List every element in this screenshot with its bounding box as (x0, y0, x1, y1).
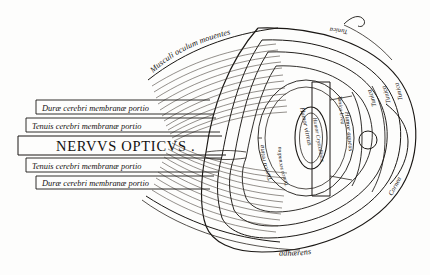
label-tunica-secundina: Tunica secundina (276, 146, 290, 187)
label-tunica-uvea: Tunica Uvea (337, 95, 346, 124)
leader-hook (344, 17, 392, 60)
label-musculi: Musculi oculum mouentes (148, 27, 232, 75)
eye-diagram-svg: Duræ cerebri membranæ portio Tenuis cere… (0, 0, 430, 275)
label-tunica-top: Tunica (328, 26, 348, 36)
svg-text:Tunica: Tunica (328, 26, 348, 36)
band-label-4: Tenuis cerebri membranæ portio (32, 162, 141, 171)
label-adhaerens: adhærens (279, 247, 312, 258)
svg-text:Cornea: Cornea (387, 175, 403, 197)
label-tunica-middle: Tunica (380, 84, 392, 104)
cornea-contour (386, 104, 408, 184)
engraving-plate: Duræ cerebri membranæ portio Tenuis cere… (0, 0, 430, 275)
band-label-5: Duræ cerebri membranæ portio (41, 179, 149, 188)
svg-text:Humor Crystallinus: Humor Crystallinus (312, 116, 326, 162)
band-label-1: Duræ cerebri membranæ portio (41, 104, 149, 113)
label-cornea: Cornea (387, 175, 403, 197)
band-label-2: Tenuis cerebri membranæ portio (32, 122, 141, 131)
label-humor-crystallinus: Humor Crystallinus (312, 116, 326, 162)
title-banner: NERVVS OPTICVS . (56, 138, 195, 154)
label-tunica-inner: Tunica (365, 88, 378, 108)
svg-text:Tunica Uvea: Tunica Uvea (337, 95, 346, 124)
